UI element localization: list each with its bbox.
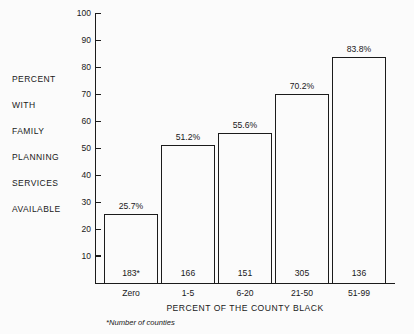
y-axis-tick-label: 50 [63, 144, 95, 153]
x-axis-category-label: 51-99 [320, 289, 398, 298]
y-axis-tick-label: 100 [63, 9, 95, 18]
y-axis-tick [95, 40, 101, 41]
y-axis-tick-text: 20 [63, 225, 91, 234]
y-axis-tick-label: 20 [63, 225, 95, 234]
y-axis-tick [95, 13, 101, 14]
bar[interactable] [275, 94, 329, 283]
y-axis-tick-text: 40 [63, 171, 91, 180]
bar-count-label: 136 [322, 269, 396, 278]
y-axis-tick-text: 90 [63, 36, 91, 45]
y-axis-tick-label: 10 [63, 252, 95, 261]
y-axis-tick [95, 175, 101, 176]
y-axis-tick-text: 30 [63, 198, 91, 207]
footnote: *Number of counties [106, 318, 175, 327]
y-axis-tick-text: 50 [63, 144, 91, 153]
y-axis-tick-text: 10 [63, 252, 91, 261]
bar[interactable] [218, 133, 272, 283]
y-axis-tick-label: 90 [63, 36, 95, 45]
y-axis-tick [95, 94, 101, 95]
y-axis-tick-text: 70 [63, 90, 91, 99]
bar[interactable] [161, 145, 215, 283]
bar[interactable] [332, 57, 386, 283]
y-axis-tick-label: 40 [63, 171, 95, 180]
y-axis-tick-text: 80 [63, 63, 91, 72]
y-axis-tick [95, 255, 101, 256]
bar-value-label: 83.8% [322, 45, 396, 54]
y-axis-tick [95, 229, 101, 230]
x-axis [95, 283, 395, 284]
bar-value-label: 70.2% [265, 82, 339, 91]
y-axis-tick-label: 60 [63, 117, 95, 126]
y-axis-tick [95, 67, 101, 68]
y-axis-tick [95, 148, 101, 149]
bar-value-label: 55.6% [208, 121, 282, 130]
y-axis-tick-label: 80 [63, 63, 95, 72]
y-axis-tick-text: 60 [63, 117, 91, 126]
x-axis-title: PERCENT OF THE COUNTY BLACK [95, 303, 395, 313]
y-axis-tick-label: 30 [63, 198, 95, 207]
bar-value-label: 25.7% [94, 202, 168, 211]
y-axis-tick-text: 100 [63, 9, 91, 18]
bar-chart: PERCENT WITH FAMILY PLANNING SERVICES AV… [0, 0, 414, 334]
y-axis-tick [95, 121, 101, 122]
y-axis-tick-label: 70 [63, 90, 95, 99]
bar-value-label: 51.2% [151, 133, 225, 142]
